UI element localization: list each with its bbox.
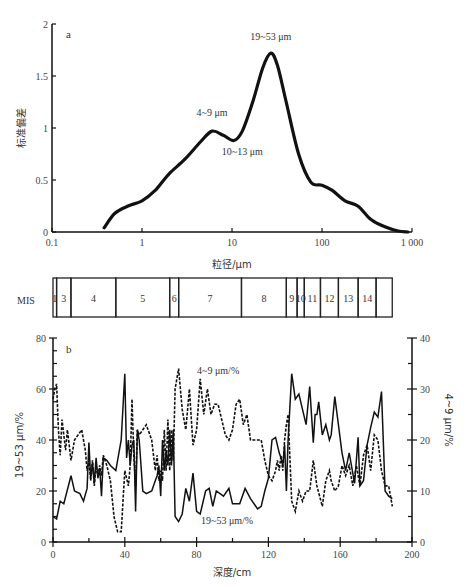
series-label-4-9um: 4~9 μm/% bbox=[197, 365, 239, 376]
x-tick-label: 200 bbox=[405, 549, 420, 560]
mis-stage-label: 12 bbox=[324, 293, 334, 304]
right-y-tick-label: 20 bbox=[420, 435, 430, 446]
y-tick-label: 1.5 bbox=[36, 71, 49, 82]
panel-a-x-axis-title: 粒径/μm bbox=[212, 258, 251, 270]
left-y-tick-label: 60 bbox=[36, 384, 46, 395]
panel-a-label: a bbox=[66, 28, 71, 40]
x-tick-label: 0.1 bbox=[46, 237, 59, 248]
mis-stage-label: 4 bbox=[91, 293, 96, 304]
mis-stage bbox=[376, 278, 392, 317]
mis-stage-label: 5 bbox=[140, 293, 145, 304]
left-y-tick-label: 40 bbox=[36, 435, 46, 446]
x-tick-label: 10 bbox=[227, 237, 237, 248]
x-tick-label: 1 bbox=[140, 237, 145, 248]
mis-stage-label: 8 bbox=[261, 293, 266, 304]
x-tick-label: 1 000 bbox=[401, 237, 424, 248]
right-y-tick-label: 30 bbox=[420, 384, 430, 395]
right-y-tick-label: 40 bbox=[420, 333, 430, 344]
peak-annotation: 4~9 μm bbox=[197, 107, 228, 118]
figure: 00.511.520.11101001 000 a 19~53 μm4~9 μm… bbox=[0, 0, 466, 587]
mis-stage-label: 7 bbox=[208, 293, 213, 304]
y-tick-label: 0 bbox=[43, 227, 48, 238]
panel-a-std-dev-curve bbox=[104, 53, 408, 232]
peak-annotation: 19~53 μm bbox=[250, 31, 291, 42]
x-tick-label: 40 bbox=[120, 549, 130, 560]
panel-b-19-53um-series bbox=[53, 374, 392, 522]
x-tick-label: 100 bbox=[315, 237, 330, 248]
y-tick-label: 2 bbox=[43, 19, 48, 30]
y-tick-label: 1 bbox=[43, 123, 48, 134]
panel-b-label: b bbox=[66, 343, 72, 355]
left-y-tick-label: 0 bbox=[41, 537, 46, 548]
series-label-19-53um: 19~53 μm/% bbox=[201, 515, 253, 526]
panel-a-grain-size-chart: 00.511.520.11101001 000 a 19~53 μm4~9 μm… bbox=[15, 19, 423, 271]
x-tick-label: 0 bbox=[51, 549, 56, 560]
mis-label: MIS bbox=[17, 295, 35, 306]
panel-a-y-axis-title: 标准偏差 bbox=[15, 108, 27, 148]
panel-b-depth-chart: 02040608001020304004080120160200 b 19~53… bbox=[14, 333, 454, 579]
panel-a-annotations: 19~53 μm4~9 μm10~13 μm bbox=[197, 31, 292, 157]
mis-stage-bar: MIS 134567891011121314 bbox=[17, 278, 392, 317]
panel-b-left-y-axis-title: 19~53 μm/% bbox=[14, 412, 25, 478]
mis-stage-label: 6 bbox=[172, 293, 177, 304]
x-tick-label: 80 bbox=[192, 549, 202, 560]
mis-stage-label: 13 bbox=[343, 293, 353, 304]
right-y-tick-label: 0 bbox=[420, 537, 425, 548]
mis-stage-label: 11 bbox=[308, 293, 318, 304]
y-tick-label: 0.5 bbox=[36, 175, 49, 186]
right-y-tick-label: 10 bbox=[420, 486, 430, 497]
mis-stage-label: 14 bbox=[362, 293, 372, 304]
x-tick-label: 160 bbox=[333, 549, 348, 560]
mis-stage-label: 3 bbox=[61, 293, 66, 304]
left-y-tick-label: 80 bbox=[36, 333, 46, 344]
peak-annotation: 10~13 μm bbox=[222, 146, 263, 157]
mis-stage-label: 9 bbox=[289, 293, 294, 304]
x-tick-label: 120 bbox=[261, 549, 276, 560]
panel-b-right-y-axis-title: 4~9 μm/% bbox=[443, 393, 454, 446]
mis-stage-boxes: 134567891011121314 bbox=[52, 278, 392, 317]
panel-b-x-axis-title: 深度/cm bbox=[213, 566, 252, 578]
left-y-tick-label: 20 bbox=[36, 486, 46, 497]
